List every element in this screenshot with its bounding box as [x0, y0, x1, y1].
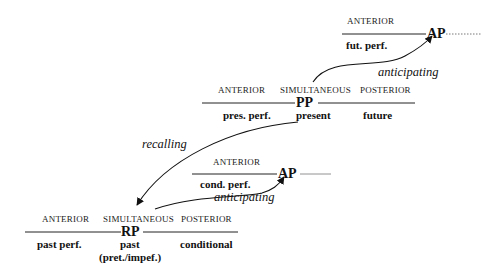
past-tense: past — [120, 238, 140, 250]
diagram-lines — [0, 0, 501, 277]
future-tense: future — [363, 109, 392, 121]
future-ap-point: AP — [427, 26, 446, 42]
present-perfect-tense: pres. perf. — [223, 109, 271, 121]
conditional-ap-anterior-label: ANTERIOR — [213, 157, 260, 167]
conditional-perfect-tense: cond. perf. — [200, 178, 250, 190]
past-simultaneous-label: SIMULTANEOUS — [103, 214, 174, 224]
future-perfect-tense: fut. perf. — [346, 39, 387, 51]
past-posterior-label: POSTERIOR — [181, 214, 232, 224]
conditional-ap-point: AP — [278, 166, 297, 182]
future-ap-anterior-label: ANTERIOR — [347, 16, 394, 26]
conditional-tense: conditional — [180, 238, 233, 250]
present-posterior-label: POSTERIOR — [360, 85, 411, 95]
past-perfect-tense: past perf. — [37, 238, 82, 250]
present-tense: present — [296, 109, 331, 121]
anticipating-label-top: anticipating — [378, 65, 438, 80]
anticipating-label-bottom: anticipating — [214, 190, 274, 205]
past-tense-subtitle: (pret./impef.) — [99, 251, 161, 263]
past-anterior-label: ANTERIOR — [42, 214, 89, 224]
present-anterior-label: ANTERIOR — [218, 85, 265, 95]
present-simultaneous-label: SIMULTANEOUS — [280, 85, 351, 95]
recalling-label: recalling — [142, 137, 187, 152]
